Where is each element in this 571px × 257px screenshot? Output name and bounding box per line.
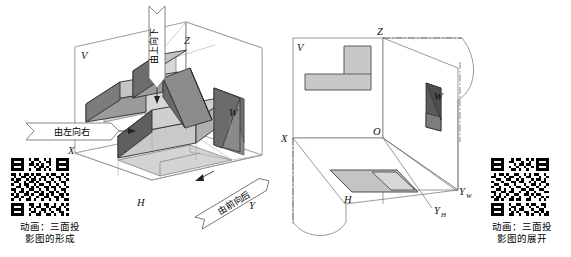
right-label-yh: Y H	[434, 205, 447, 219]
right-label-h: H	[343, 194, 353, 205]
right-label-z: Z	[377, 26, 383, 37]
right-label-yw-main: Y	[459, 186, 466, 197]
right-label-o: O	[373, 126, 381, 137]
right-label-yw: Y W	[459, 186, 473, 200]
caption-formation-line2: 影图的形成	[2, 233, 98, 245]
left-label-y: Y	[249, 200, 256, 211]
left-label-x: X	[67, 145, 75, 156]
qr-code-unfolding[interactable]	[489, 156, 551, 218]
caption-formation-line1: 动画：三面投	[2, 221, 98, 233]
right-label-yh-sub: H	[440, 211, 447, 219]
caption-unfolding-line1: 动画：三面投	[474, 221, 570, 233]
top-down-arrow-label: 由上向下	[148, 28, 159, 64]
caption-formation: 动画：三面投 影图的形成	[2, 221, 98, 245]
left-label-h: H	[136, 197, 146, 208]
three-view-projection-figure: V W H X Y Z 由上向下 由左向右	[0, 0, 571, 257]
right-label-x: X	[280, 133, 288, 144]
caption-unfolding: 动画：三面投 影图的展开	[474, 221, 570, 245]
right-label-w: W	[434, 91, 444, 102]
front-back-arrow: 由前向后	[195, 175, 272, 229]
left-label-w: W	[229, 107, 239, 118]
right-panel-group: V W H X O Z Y W Y H	[280, 26, 474, 236]
caption-unfolding-line2: 影图的展开	[474, 233, 570, 245]
qr-code-formation[interactable]	[9, 156, 71, 218]
right-label-yh-main: Y	[434, 205, 441, 216]
left-right-arrow-label: 由左向右	[54, 126, 90, 137]
left-label-z: Z	[184, 35, 190, 46]
right-label-yw-sub: W	[466, 192, 473, 200]
diagram-canvas: V W H X Y Z 由上向下 由左向右	[0, 0, 571, 257]
